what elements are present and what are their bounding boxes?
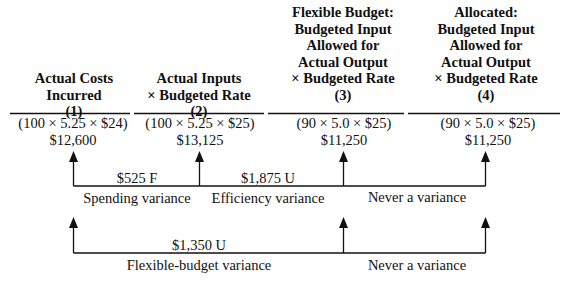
efficiency-variance-amount: $1,875 U xyxy=(241,170,295,186)
never-a-variance-label-row2: Never a variance xyxy=(368,257,466,273)
spending-variance-amount: $525 F xyxy=(117,170,158,186)
flexible-budget-variance-amount: $1,350 U xyxy=(172,237,226,253)
spending-variance-label: Spending variance xyxy=(83,190,191,206)
variance-diagram-lines xyxy=(0,0,569,281)
flexible-budget-variance-label: Flexible-budget variance xyxy=(127,257,272,273)
efficiency-variance-label: Efficiency variance xyxy=(212,190,325,206)
never-a-variance-label-row1: Never a variance xyxy=(368,189,466,205)
